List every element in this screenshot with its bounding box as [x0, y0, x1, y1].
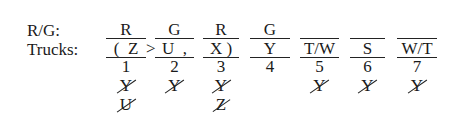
eliminated-option: Y — [203, 77, 239, 95]
eliminated-option: U — [106, 96, 146, 114]
eliminated-option: Z — [203, 96, 239, 114]
truck-cell: T/W — [300, 40, 339, 58]
truck-cell: S — [350, 40, 385, 58]
eliminated-option: Y — [106, 77, 146, 95]
slot-number: 4 — [250, 58, 290, 76]
eliminated-option: Y — [350, 77, 385, 95]
eliminated-option: Y — [300, 77, 339, 95]
slot-number: 6 — [350, 58, 385, 76]
slot-column-6: S 6 Y — [350, 0, 385, 137]
eliminated-option: Y — [155, 77, 194, 95]
slot-column-5: T/W 5 Y — [300, 0, 339, 137]
row-label-rg: R/G: — [27, 22, 60, 40]
rg-cell: G — [155, 21, 194, 39]
slot-number: 1 — [106, 58, 146, 76]
slot-column-7: W/T 7 Y — [397, 0, 437, 137]
slot-column-2: G U , 2 Y — [155, 0, 194, 137]
slot-number: 3 — [203, 58, 239, 76]
truck-cell: U , — [155, 40, 194, 58]
rg-cell: G — [250, 21, 290, 39]
slot-number: 2 — [155, 58, 194, 76]
eliminated-option: Y — [397, 77, 437, 95]
slot-number: 5 — [300, 58, 339, 76]
slot-column-3: R X ) 3 Y Z — [203, 0, 239, 137]
slot-column-1: R ( Z 1 Y U — [106, 0, 146, 137]
slot-column-4: G Y 4 — [250, 0, 290, 137]
truck-cell: X ) — [203, 40, 239, 58]
row-label-trucks: Trucks: — [27, 41, 78, 59]
rg-cell: R — [106, 21, 146, 39]
rg-cell: R — [203, 21, 239, 39]
truck-cell: Y — [250, 40, 290, 58]
truck-cell: ( Z — [106, 40, 146, 58]
truck-cell: W/T — [397, 40, 437, 58]
slot-number: 7 — [397, 58, 437, 76]
